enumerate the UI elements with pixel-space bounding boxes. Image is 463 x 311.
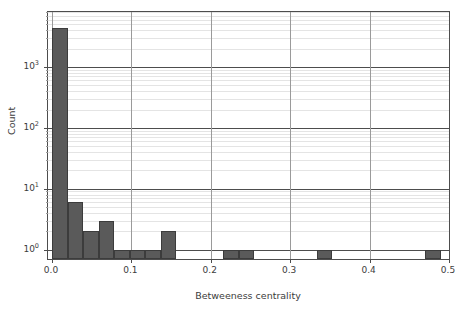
gridline-minor-horizontal bbox=[48, 49, 449, 50]
y-axis-minor-tick bbox=[46, 73, 48, 74]
y-axis-minor-tick bbox=[46, 30, 48, 31]
gridline-minor-horizontal bbox=[48, 160, 449, 161]
gridline-minor-horizontal bbox=[48, 110, 449, 111]
y-axis-minor-tick bbox=[46, 12, 48, 13]
gridline-minor-horizontal bbox=[48, 20, 449, 21]
y-axis-minor-tick bbox=[46, 202, 48, 203]
gridline-minor-horizontal bbox=[48, 141, 449, 142]
x-axis-tick bbox=[370, 259, 371, 263]
gridline-minor-horizontal bbox=[48, 131, 449, 132]
x-axis-tick bbox=[449, 259, 450, 263]
y-axis-tick bbox=[44, 128, 48, 129]
gridline-major-vertical bbox=[131, 12, 132, 259]
gridline-minor-horizontal bbox=[48, 202, 449, 203]
gridline-minor-horizontal bbox=[48, 195, 449, 196]
gridline-minor-horizontal bbox=[48, 30, 449, 31]
gridline-minor-horizontal bbox=[48, 24, 449, 25]
y-axis-minor-tick bbox=[46, 160, 48, 161]
y-axis-minor-tick bbox=[46, 91, 48, 92]
y-axis-minor-tick bbox=[46, 134, 48, 135]
gridline-minor-horizontal bbox=[48, 191, 449, 192]
histogram-bar bbox=[68, 202, 84, 259]
histogram-bar bbox=[114, 250, 130, 259]
x-axis-tick-label: 0.0 bbox=[44, 265, 58, 275]
y-axis-minor-tick bbox=[46, 99, 48, 100]
gridline-minor-horizontal bbox=[48, 85, 449, 86]
y-axis-minor-tick bbox=[46, 49, 48, 50]
x-axis-tick-label: 0.1 bbox=[123, 265, 137, 275]
x-axis-tick-label: 0.5 bbox=[441, 265, 455, 275]
histogram-figure: Count Betweeness centrality 100101102103… bbox=[0, 0, 463, 311]
gridline-minor-horizontal bbox=[48, 134, 449, 135]
y-axis-minor-tick bbox=[46, 213, 48, 214]
y-axis-minor-tick bbox=[46, 38, 48, 39]
y-axis-minor-tick bbox=[46, 198, 48, 199]
x-axis-tick-label: 0.3 bbox=[282, 265, 296, 275]
x-axis-title: Betweeness centrality bbox=[195, 290, 301, 301]
gridline-minor-horizontal bbox=[48, 152, 449, 153]
gridline-minor-horizontal bbox=[48, 198, 449, 199]
gridline-minor-horizontal bbox=[48, 73, 449, 74]
y-axis-tick-label: 103 bbox=[0, 61, 39, 71]
x-axis-tick bbox=[211, 259, 212, 263]
gridline-minor-horizontal bbox=[48, 70, 449, 71]
histogram-bar bbox=[99, 221, 115, 259]
y-axis-minor-tick bbox=[46, 20, 48, 21]
gridline-minor-horizontal bbox=[48, 146, 449, 147]
gridline-major-vertical bbox=[370, 12, 371, 259]
y-axis-minor-tick bbox=[46, 191, 48, 192]
y-axis-minor-tick bbox=[46, 85, 48, 86]
x-axis-tick-label: 0.4 bbox=[361, 265, 375, 275]
histogram-bar bbox=[130, 250, 146, 259]
gridline-minor-horizontal bbox=[48, 80, 449, 81]
x-axis-tick bbox=[52, 259, 53, 263]
y-axis-tick-label: 101 bbox=[0, 183, 39, 193]
histogram-bar bbox=[223, 250, 239, 259]
x-axis-tick bbox=[131, 259, 132, 263]
x-axis-tick bbox=[290, 259, 291, 263]
plot-area bbox=[47, 11, 450, 260]
gridline-minor-horizontal bbox=[48, 12, 449, 13]
gridline-minor-horizontal bbox=[48, 207, 449, 208]
gridline-minor-horizontal bbox=[48, 16, 449, 17]
y-axis-minor-tick bbox=[46, 152, 48, 153]
histogram-bar bbox=[317, 250, 333, 259]
y-axis-tick bbox=[44, 67, 48, 68]
y-axis-minor-tick bbox=[46, 170, 48, 171]
gridline-major-vertical bbox=[211, 12, 212, 259]
y-axis-minor-tick bbox=[46, 207, 48, 208]
y-axis-minor-tick bbox=[46, 80, 48, 81]
gridline-minor-horizontal bbox=[48, 38, 449, 39]
gridline-major-horizontal bbox=[48, 128, 449, 129]
histogram-bar bbox=[52, 28, 68, 259]
y-axis-minor-tick bbox=[46, 137, 48, 138]
histogram-bar bbox=[425, 250, 441, 259]
y-axis-tick bbox=[44, 189, 48, 190]
y-axis-minor-tick bbox=[46, 16, 48, 17]
y-axis-minor-tick bbox=[46, 195, 48, 196]
gridline-major-horizontal bbox=[48, 189, 449, 190]
x-axis-tick-label: 0.2 bbox=[203, 265, 217, 275]
y-axis-minor-tick bbox=[46, 141, 48, 142]
y-axis-minor-tick bbox=[46, 221, 48, 222]
gridline-minor-horizontal bbox=[48, 99, 449, 100]
y-axis-minor-tick bbox=[46, 231, 48, 232]
gridline-major-vertical bbox=[290, 12, 291, 259]
y-axis-minor-tick bbox=[46, 76, 48, 77]
histogram-bar bbox=[239, 250, 255, 259]
gridline-major-horizontal bbox=[48, 67, 449, 68]
y-axis-minor-tick bbox=[46, 110, 48, 111]
y-axis-minor-tick bbox=[46, 70, 48, 71]
y-axis-tick-label: 100 bbox=[0, 244, 39, 254]
y-axis-tick-label: 102 bbox=[0, 122, 39, 132]
y-axis-tick bbox=[44, 250, 48, 251]
y-axis-minor-tick bbox=[46, 146, 48, 147]
histogram-bar bbox=[161, 231, 177, 259]
gridline-minor-horizontal bbox=[48, 76, 449, 77]
y-axis-minor-tick bbox=[46, 131, 48, 132]
gridline-minor-horizontal bbox=[48, 170, 449, 171]
y-axis-minor-tick bbox=[46, 24, 48, 25]
gridline-minor-horizontal bbox=[48, 137, 449, 138]
histogram-bar bbox=[83, 231, 99, 259]
gridline-minor-horizontal bbox=[48, 213, 449, 214]
